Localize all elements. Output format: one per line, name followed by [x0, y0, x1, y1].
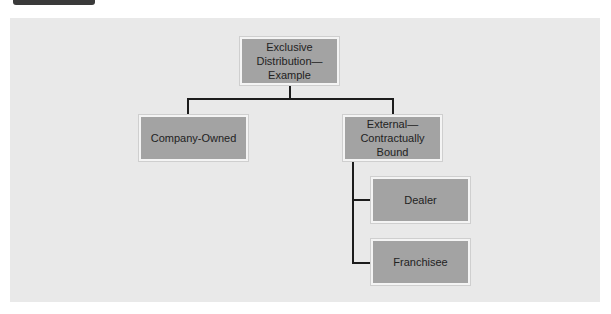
node-root-line-2: Distribution—	[256, 54, 322, 68]
connector-franchisee	[352, 262, 372, 264]
header-tab	[13, 0, 95, 5]
node-dealer-label: Dealer	[404, 193, 436, 207]
node-root-line-3: Example	[256, 68, 322, 82]
node-external-contractually-bound: External— Contractually Bound	[343, 115, 442, 161]
node-root-line-1: Exclusive	[256, 40, 322, 54]
node-dealer: Dealer	[371, 177, 470, 223]
node-external-line-1: External—	[360, 117, 424, 131]
connector-external-down	[352, 160, 354, 264]
node-external-line-3: Bound	[360, 145, 424, 159]
node-company-owned: Company-Owned	[139, 115, 248, 161]
node-franchisee: Franchisee	[371, 239, 470, 285]
node-company-owned-label: Company-Owned	[151, 131, 237, 145]
connector-company-owned	[187, 98, 189, 116]
node-franchisee-label: Franchisee	[393, 255, 447, 269]
connector-dealer	[352, 199, 372, 201]
connector-external	[392, 98, 394, 116]
node-external-line-2: Contractually	[360, 131, 424, 145]
connector-level1-horizontal	[187, 98, 394, 100]
node-root-exclusive-distribution: Exclusive Distribution— Example	[240, 37, 339, 85]
